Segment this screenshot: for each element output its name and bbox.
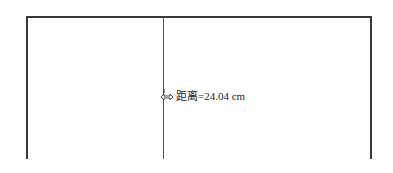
dragged-guide-line[interactable] — [163, 17, 164, 159]
shape-top-edge — [26, 16, 372, 18]
shape-left-edge — [26, 16, 28, 159]
move-arrows-icon — [160, 89, 174, 103]
distance-tooltip: 距离=24.04 cm — [160, 89, 245, 103]
shape-right-edge — [370, 16, 372, 159]
distance-readout: 距离=24.04 cm — [176, 89, 245, 103]
document-canvas: 距离=24.04 cm — [0, 0, 393, 173]
